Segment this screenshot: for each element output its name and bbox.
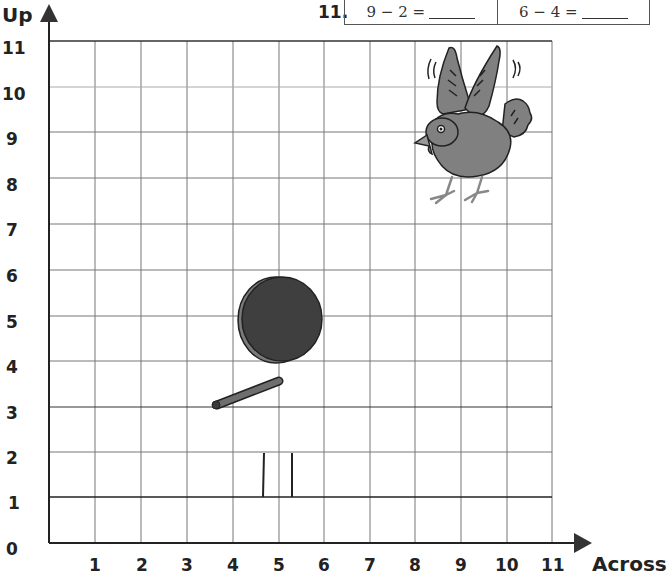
y-tick-5: 5 <box>6 312 18 332</box>
x-tick-11: 11 <box>541 555 565 575</box>
disc-picture <box>238 277 322 363</box>
bird-picture <box>415 46 532 177</box>
y-tick-4: 4 <box>6 357 18 377</box>
y-tick-3: 3 <box>6 403 18 423</box>
y-tick-1: 1 <box>8 493 20 513</box>
y-tick-8: 8 <box>6 175 18 195</box>
x-tick-9: 9 <box>455 555 467 575</box>
y-tick-11: 11 <box>2 38 26 58</box>
bird-feet <box>431 177 488 203</box>
y-tick-9: 9 <box>6 129 18 149</box>
x-tick-8: 8 <box>409 555 421 575</box>
x-tick-1: 1 <box>89 555 101 575</box>
x-tick-5: 5 <box>273 555 285 575</box>
x-tick-2: 2 <box>136 555 148 575</box>
posts-picture <box>263 453 292 497</box>
x-tick-4: 4 <box>227 555 239 575</box>
stick-picture <box>212 381 279 409</box>
y-tick-10: 10 <box>2 84 26 104</box>
x-tick-10: 10 <box>495 555 519 575</box>
y-tick-7: 7 <box>6 220 18 240</box>
x-tick-3: 3 <box>181 555 193 575</box>
x-tick-6: 6 <box>318 555 330 575</box>
y-tick-2: 2 <box>6 448 18 468</box>
x-tick-7: 7 <box>364 555 376 575</box>
y-tick-0: 0 <box>6 539 18 559</box>
across-arrow-icon <box>574 533 592 553</box>
axes <box>40 4 592 553</box>
up-arrow-icon <box>40 4 58 22</box>
y-tick-6: 6 <box>6 266 18 286</box>
